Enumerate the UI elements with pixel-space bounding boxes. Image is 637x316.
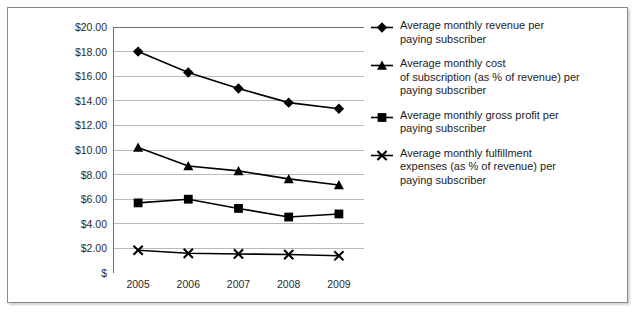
data-point-square	[234, 204, 243, 213]
data-point-diamond	[334, 104, 344, 114]
y-axis-tick-labels: $20.00$18.00$16.00$14.00$12.00$10.00$8.0…	[35, 27, 107, 273]
legend-item-0[interactable]: Average monthly revenue per paying subsc…	[371, 19, 616, 46]
data-series-layer	[133, 46, 344, 260]
data-point-diamond	[284, 97, 294, 107]
y-tick-label: $14.00	[43, 96, 107, 107]
plot-area	[113, 27, 364, 273]
legend-label: Average monthly fulfillment expenses (as…	[400, 147, 556, 188]
x-tick-label: 2008	[277, 279, 300, 290]
y-tick-label: $4.00	[43, 219, 107, 230]
data-point-diamond	[377, 22, 387, 32]
data-point-diamond	[233, 83, 243, 93]
legend-item-3[interactable]: Average monthly fulfillment expenses (as…	[371, 147, 616, 188]
chart-legend: Average monthly revenue per paying subsc…	[371, 19, 616, 198]
x-axis-tick-labels: 20052006200720082009	[113, 279, 364, 299]
y-tick-label: $16.00	[43, 71, 107, 82]
legend-label: Average monthly gross profit per paying …	[400, 109, 559, 136]
y-tick-label: $	[43, 268, 107, 279]
legend-marker-x-icon	[371, 148, 393, 161]
legend-label: Average monthly cost of subscription (as…	[400, 57, 580, 98]
data-point-square	[378, 113, 387, 122]
y-tick-label: $20.00	[43, 22, 107, 33]
x-tick-label: 2006	[177, 279, 200, 290]
x-tick-label: 2009	[327, 279, 350, 290]
y-tick-label: $12.00	[43, 120, 107, 131]
chart-frame: $20.00$18.00$16.00$14.00$12.00$10.00$8.0…	[7, 7, 628, 303]
legend-label: Average monthly revenue per paying subsc…	[400, 19, 544, 46]
gridlines	[113, 27, 364, 273]
legend-item-2[interactable]: Average monthly gross profit per paying …	[371, 109, 616, 136]
data-point-square	[134, 198, 143, 207]
data-point-diamond	[133, 46, 143, 56]
legend-item-1[interactable]: Average monthly cost of subscription (as…	[371, 57, 616, 98]
data-point-square	[335, 210, 344, 219]
y-tick-label: $8.00	[43, 169, 107, 180]
y-tick-label: $10.00	[43, 145, 107, 156]
legend-marker-diamond-icon	[371, 20, 393, 33]
series-3	[134, 246, 344, 261]
legend-marker-triangle-icon	[371, 58, 393, 71]
y-tick-label: $6.00	[43, 194, 107, 205]
y-tick-label: $2.00	[43, 243, 107, 254]
legend-marker-square-icon	[371, 110, 393, 123]
x-tick-label: 2007	[227, 279, 250, 290]
x-tick-label: 2005	[126, 279, 149, 290]
y-tick-label: $18.00	[43, 46, 107, 57]
line-chart-svg	[113, 27, 364, 273]
data-point-triangle	[133, 143, 143, 152]
data-point-square	[184, 195, 193, 204]
data-point-square	[284, 213, 293, 222]
series-0	[133, 46, 344, 114]
